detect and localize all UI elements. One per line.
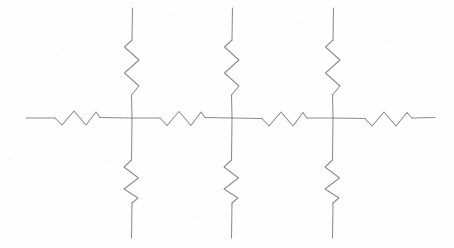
resistor-series-1-icon — [55, 111, 100, 125]
resistors-group — [55, 40, 412, 203]
paper-speck — [108, 160, 109, 161]
resistor-series-4-icon — [365, 112, 412, 126]
wire-rail-node3-to-r4 — [333, 118, 365, 119]
wire-branch-2-top-lower — [232, 95, 233, 118]
paper-speck — [262, 172, 263, 173]
wire-branch-1-bottom-upper — [132, 118, 133, 160]
wire-branch-1-top-upper — [132, 8, 133, 40]
wire-rail-r1-to-node1 — [100, 118, 132, 119]
circuit-diagram — [0, 0, 454, 248]
paper-speck — [196, 58, 197, 59]
wire-branch-2-bottom-upper — [232, 118, 233, 160]
paper-speck — [160, 44, 161, 45]
wire-branch-1-top-lower — [132, 95, 133, 118]
wire-rail-r2-to-node2 — [205, 118, 232, 119]
resistor-branch-1-top-icon — [125, 40, 140, 95]
resistor-series-2-icon — [160, 112, 205, 126]
resistor-branch-2-top-icon — [225, 40, 240, 95]
resistor-branch-2-bottom-icon — [224, 160, 239, 203]
wire-branch-3-bottom-lower — [333, 203, 334, 238]
paper-speck — [62, 48, 63, 49]
wire-branch-2-bottom-lower — [232, 203, 233, 238]
wire-rail-node2-to-r3 — [232, 118, 262, 119]
resistor-branch-3-top-icon — [326, 40, 341, 95]
paper-speck — [388, 40, 389, 41]
resistor-branch-1-bottom-icon — [124, 160, 139, 203]
wire-branch-1-bottom-lower — [132, 203, 133, 238]
paper-speck — [8, 158, 9, 159]
paper-speck — [196, 216, 197, 217]
schematic-canvas — [0, 0, 454, 248]
paper-speck — [172, 14, 173, 15]
paper-speck — [356, 196, 357, 197]
wire-branch-3-top-lower — [333, 95, 334, 118]
resistor-series-3-icon — [262, 112, 307, 126]
resistor-branch-3-bottom-icon — [325, 160, 340, 203]
paper-speck — [420, 148, 421, 149]
wire-branch-2-top-upper — [232, 8, 233, 40]
paper-speck — [300, 22, 301, 23]
wire-branch-3-bottom-upper — [333, 118, 334, 160]
wire-rail-lead-right — [412, 118, 435, 119]
wire-branch-3-top-upper — [333, 8, 334, 40]
